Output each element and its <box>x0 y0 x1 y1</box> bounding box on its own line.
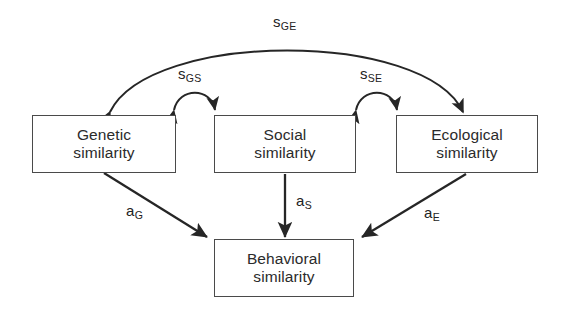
node-ecological-similarity[interactable]: Ecological similarity <box>396 115 538 173</box>
edge-s-ge-arc <box>110 51 463 113</box>
edge-label-a-e-sub: E <box>433 211 440 223</box>
edge-label-s-se-base: s <box>360 65 368 82</box>
node-ecological-line-2: similarity <box>436 144 497 162</box>
edge-label-a-e-base: a <box>424 204 432 221</box>
edge-s-se-arc <box>356 93 397 110</box>
edge-label-s-gs-base: s <box>178 65 186 82</box>
node-social-line-2: similarity <box>254 144 315 162</box>
edge-label-s-se: sSE <box>360 66 382 81</box>
node-social-line-1: Social <box>264 126 307 144</box>
edge-label-a-g-sub: G <box>135 209 143 221</box>
node-genetic-similarity[interactable]: Genetic similarity <box>32 115 176 173</box>
edge-a-g-arrow <box>104 173 207 237</box>
node-behavioral-similarity[interactable]: Behavioral similarity <box>214 239 354 297</box>
edge-label-s-gs: sGS <box>178 66 201 81</box>
edge-a-e-arrow <box>362 174 466 237</box>
edge-label-s-ge: sGE <box>273 14 296 29</box>
node-behavioral-line-2: similarity <box>253 268 314 286</box>
edge-label-a-e: aE <box>424 205 440 220</box>
edge-s-gs-arc <box>174 93 215 110</box>
node-behavioral-line-1: Behavioral <box>247 250 321 268</box>
edge-label-s-ge-sub: GE <box>281 20 297 32</box>
edge-label-a-s: aS <box>296 193 312 208</box>
edge-label-s-se-sub: SE <box>368 72 382 84</box>
path-diagram: Genetic similarity Social similarity Eco… <box>0 0 563 312</box>
edge-label-a-g-base: a <box>126 202 134 219</box>
node-social-similarity[interactable]: Social similarity <box>214 115 356 173</box>
edge-label-a-s-base: a <box>296 192 304 209</box>
node-genetic-line-2: similarity <box>73 144 134 162</box>
edge-label-s-ge-base: s <box>273 13 281 30</box>
node-genetic-line-1: Genetic <box>77 126 131 144</box>
node-ecological-line-1: Ecological <box>431 126 503 144</box>
edge-label-a-g: aG <box>126 203 143 218</box>
edge-label-s-gs-sub: GS <box>186 72 202 84</box>
edge-label-a-s-sub: S <box>305 199 312 211</box>
